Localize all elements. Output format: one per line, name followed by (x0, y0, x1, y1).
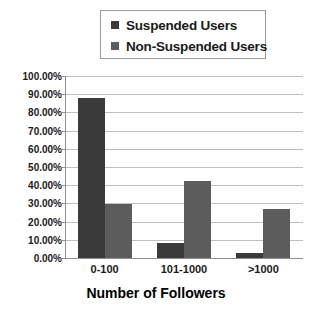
x-axis-title: Number of Followers (0, 285, 312, 301)
plot-area (65, 76, 303, 258)
bar-group (78, 76, 132, 258)
x-axis-ticks: 0-100101-1000>1000 (65, 263, 303, 279)
legend-swatch-suspended-users (111, 21, 119, 29)
y-axis-tick-label: 40.00% (4, 180, 62, 191)
y-axis-ticks: 0.00%10.00%20.00%30.00%40.00%50.00%60.00… (0, 76, 62, 259)
legend-swatch-non-suspended-users (111, 42, 119, 50)
y-axis-tick-label: 50.00% (4, 162, 62, 173)
bar-group (157, 76, 211, 258)
y-axis-line (65, 76, 66, 259)
y-axis-tick-label: 60.00% (4, 143, 62, 154)
legend-entry-suspended-users: Suspended Users (111, 15, 265, 35)
y-axis-tick-label: 0.00% (4, 253, 62, 264)
x-axis-tick-label: 101-1000 (161, 263, 208, 275)
bar (78, 98, 105, 258)
legend-label-non-suspended-users: Non-Suspended Users (126, 39, 267, 54)
y-axis-tick-label: 10.00% (4, 234, 62, 245)
bar (184, 181, 211, 258)
y-axis-tick-label: 20.00% (4, 216, 62, 227)
y-axis-tick-label: 80.00% (4, 107, 62, 118)
y-axis-tick-label: 70.00% (4, 125, 62, 136)
bar (105, 204, 132, 258)
bar-group (236, 76, 290, 258)
y-axis-tick-label: 30.00% (4, 198, 62, 209)
legend-entry-non-suspended-users: Non-Suspended Users (111, 36, 265, 56)
x-axis-tick-label: 0-100 (91, 263, 119, 275)
bar-chart: Suspended Users Non-Suspended Users 0.00… (0, 0, 312, 311)
legend-label-suspended-users: Suspended Users (126, 18, 237, 33)
chart-legend: Suspended Users Non-Suspended Users (100, 10, 266, 59)
y-axis-tick-label: 100.00% (4, 71, 62, 82)
bar (157, 243, 184, 258)
y-axis-tick-label: 90.00% (4, 89, 62, 100)
x-axis-line (65, 258, 303, 259)
bar (263, 209, 290, 258)
x-axis-tick-label: >1000 (248, 263, 279, 275)
